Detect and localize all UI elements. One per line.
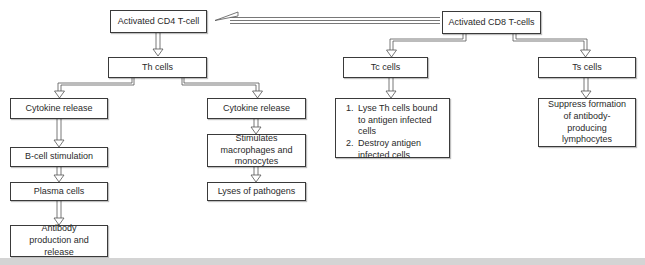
node-label: Ts cells bbox=[572, 62, 602, 74]
node-label: Cytokine release bbox=[223, 103, 290, 115]
tc-actions-list: Lyse Th cells bound to antigen infected … bbox=[342, 103, 443, 161]
node-label: Suppress formation of antibody-producing… bbox=[545, 99, 629, 146]
node-th-cells: Th cells bbox=[108, 57, 207, 78]
node-plasma-cells: Plasma cells bbox=[10, 182, 108, 201]
node-label: Lyses of pathogens bbox=[218, 186, 296, 198]
node-antibody-production: Antibody production and release bbox=[10, 225, 108, 257]
node-ts-cells: Ts cells bbox=[538, 57, 636, 78]
node-activated-cd4: Activated CD4 T-cell bbox=[110, 10, 207, 33]
bottom-band bbox=[0, 258, 645, 265]
node-suppress-formation: Suppress formation of antibody-producing… bbox=[538, 98, 636, 147]
node-bcell-stimulation: B-cell stimulation bbox=[10, 147, 108, 167]
node-label: Activated CD8 T-cells bbox=[449, 17, 535, 29]
node-label: Activated CD4 T-cell bbox=[118, 16, 199, 28]
list-item: Destroy antigen infected cells bbox=[356, 138, 443, 161]
node-tc-cells: Tc cells bbox=[343, 57, 428, 78]
node-stimulates-macrophages: Stimulates macrophages and monocytes bbox=[207, 134, 306, 167]
node-label: Stimulates macrophages and monocytes bbox=[216, 133, 297, 168]
node-cytokine-release-left: Cytokine release bbox=[10, 98, 108, 119]
node-tc-actions: Lyse Th cells bound to antigen infected … bbox=[335, 98, 450, 158]
node-label: B-cell stimulation bbox=[25, 151, 93, 163]
node-activated-cd8: Activated CD8 T-cells bbox=[442, 11, 541, 34]
node-label: Tc cells bbox=[371, 62, 401, 74]
node-label: Antibody production and release bbox=[21, 223, 97, 258]
node-lyses-of-pathogens: Lyses of pathogens bbox=[207, 182, 306, 201]
node-label: Cytokine release bbox=[25, 103, 92, 115]
node-label: Plasma cells bbox=[34, 186, 85, 198]
list-item: Lyse Th cells bound to antigen infected … bbox=[356, 103, 443, 138]
node-label: Th cells bbox=[142, 62, 173, 74]
node-cytokine-release-right: Cytokine release bbox=[207, 98, 306, 119]
